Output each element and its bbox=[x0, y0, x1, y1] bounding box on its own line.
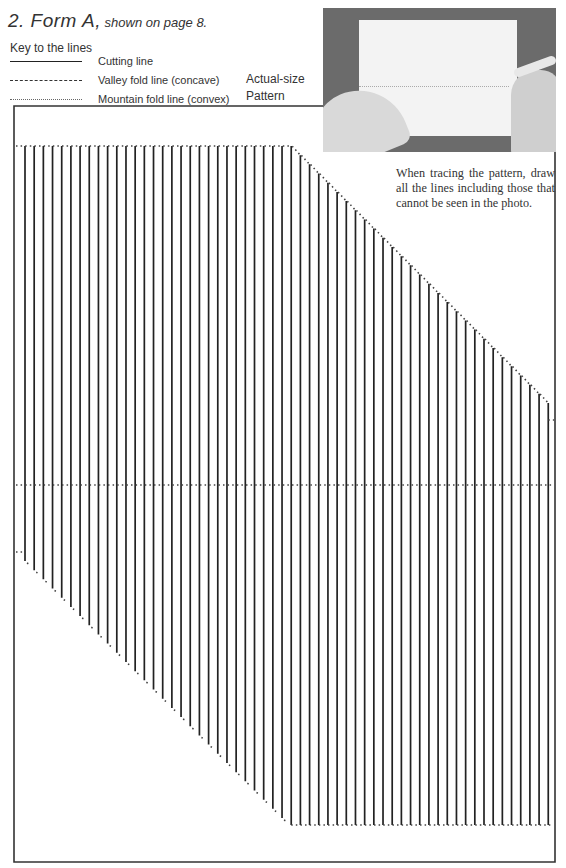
photo-right-hand bbox=[511, 70, 556, 152]
pattern-border bbox=[14, 106, 555, 862]
photo-traced-line bbox=[359, 86, 509, 87]
tracing-photo bbox=[323, 8, 556, 152]
tracing-note: When tracing the pattern, draw all the l… bbox=[396, 166, 555, 211]
